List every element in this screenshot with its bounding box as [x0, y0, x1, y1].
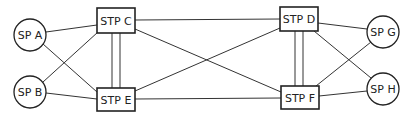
link-stpc-stpf: [135, 29, 281, 92]
link-stpd-spg: [318, 23, 367, 29]
node-label: SP H: [370, 83, 395, 96]
signaling-network-diagram: SP ASP BSTP CSTP ESTP DSTP FSP GSP H: [0, 0, 413, 121]
node-stp-f: STP F: [281, 86, 319, 109]
node-sp-g: SP G: [367, 16, 399, 48]
node-label: SP G: [370, 26, 396, 39]
node-label: STP D: [283, 13, 315, 26]
link-stpd-sph: [314, 31, 371, 78]
node-label: SP A: [18, 29, 43, 42]
links-group: [43, 19, 371, 99]
link-stpe-stpf: [135, 98, 281, 99]
node-stp-e: STP E: [97, 88, 135, 111]
link-stpc-stpd: [135, 19, 280, 20]
link-stpe-stpd: [135, 28, 280, 91]
link-spa-stpe: [43, 44, 97, 92]
node-label: STP C: [100, 15, 132, 28]
node-label: SP B: [18, 86, 43, 99]
nodes-group: SP ASP BSTP CSTP ESTP DSTP FSP GSP H: [14, 7, 399, 111]
link-stpf-spg: [316, 42, 371, 86]
node-label: STP E: [101, 94, 132, 107]
link-stpf-sph: [319, 91, 367, 96]
node-label: STP F: [285, 92, 315, 105]
node-sp-b: SP B: [14, 76, 46, 108]
node-stp-c: STP C: [97, 8, 135, 33]
link-spa-stpc: [46, 25, 97, 32]
link-spb-stpc: [43, 32, 98, 82]
node-sp-h: SP H: [367, 73, 399, 105]
node-sp-a: SP A: [14, 19, 46, 51]
link-spb-stpe: [46, 93, 97, 99]
node-stp-d: STP D: [280, 7, 318, 31]
